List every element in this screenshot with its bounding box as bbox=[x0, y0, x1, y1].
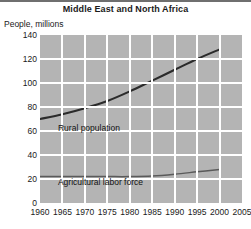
y-tick-label: 40 bbox=[3, 150, 37, 160]
x-tick-label: 2005 bbox=[233, 207, 251, 217]
x-tick-label: 1965 bbox=[53, 207, 72, 217]
x-tick-label: 1975 bbox=[98, 207, 117, 217]
x-tick-label: 1960 bbox=[31, 207, 50, 217]
gridline-horizontal bbox=[40, 154, 242, 156]
chart-figure: Middle East and North Africa People, mil… bbox=[0, 0, 251, 229]
y-axis-title: People, millions bbox=[4, 19, 64, 29]
x-tick-label: 1980 bbox=[120, 207, 139, 217]
y-tick-label: 100 bbox=[3, 78, 37, 88]
gridline-vertical bbox=[219, 35, 221, 203]
gridline-horizontal bbox=[40, 82, 242, 84]
y-tick-label: 60 bbox=[3, 126, 37, 136]
chart-title: Middle East and North Africa bbox=[0, 4, 251, 14]
gridline-horizontal bbox=[40, 106, 242, 108]
gridline-horizontal bbox=[40, 58, 242, 60]
x-tick-label: 1990 bbox=[165, 207, 184, 217]
y-tick-label: 140 bbox=[3, 30, 37, 40]
plot-area: Rural populationAgricultural labor force bbox=[40, 35, 242, 203]
x-tick-label: 1970 bbox=[75, 207, 94, 217]
y-tick-label: 80 bbox=[3, 102, 37, 112]
y-tick-label: 20 bbox=[3, 174, 37, 184]
gridline-vertical bbox=[151, 35, 153, 203]
series-annotation: Rural population bbox=[58, 123, 120, 133]
x-tick-label: 2000 bbox=[210, 207, 229, 217]
x-tick-label: 1995 bbox=[188, 207, 207, 217]
header-divider bbox=[0, 0, 251, 2]
y-axis-ticks: 020406080100120140 bbox=[0, 35, 37, 203]
x-tick-label: 1985 bbox=[143, 207, 162, 217]
y-tick-label: 120 bbox=[3, 54, 37, 64]
series-annotation: Agricultural labor force bbox=[58, 177, 143, 187]
gridline-vertical bbox=[174, 35, 176, 203]
gridline-vertical bbox=[196, 35, 198, 203]
x-axis-ticks: 1960196519701975198019851990199520002005 bbox=[0, 205, 251, 221]
